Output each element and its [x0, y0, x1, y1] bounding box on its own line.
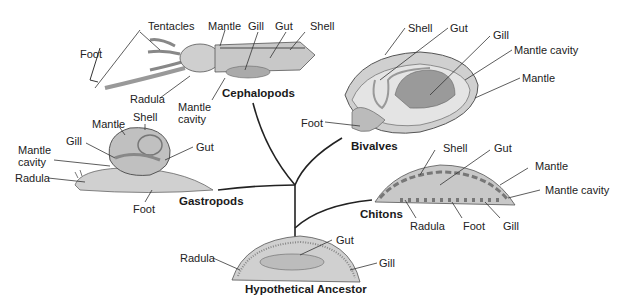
- label-gas-gut: Gut: [196, 141, 214, 153]
- label-chi-shell: Shell: [443, 142, 467, 154]
- label-biv-foot: Foot: [301, 117, 323, 129]
- label-ceph-gill: Gill: [248, 20, 264, 32]
- label-anc-gut: Gut: [336, 234, 354, 246]
- label-chi-radula: Radula: [410, 220, 445, 232]
- label-anc-radula: Radula: [180, 252, 215, 264]
- label-ceph-radula: Radula: [130, 93, 165, 105]
- label-biv-gut: Gut: [450, 22, 468, 34]
- label-biv-mantle: Mantle: [522, 72, 555, 84]
- label-gas-mantle-cavity-2: cavity: [18, 156, 46, 168]
- label-ceph-foot: Foot: [80, 48, 102, 60]
- group-label-chitons: Chitons: [360, 208, 403, 220]
- label-gas-foot: Foot: [133, 203, 155, 215]
- label-chi-mantle-cavity: Mantle cavity: [545, 184, 609, 196]
- label-biv-mantle-cavity: Mantle cavity: [514, 44, 578, 56]
- label-gas-shell: Shell: [133, 111, 157, 123]
- label-biv-gill: Gill: [493, 29, 509, 41]
- label-ceph-mantle-cavity-2: cavity: [178, 113, 206, 125]
- group-label-cephalopods: Cephalopods: [222, 87, 295, 99]
- group-label-gastropods: Gastropods: [179, 195, 244, 207]
- label-biv-shell: Shell: [408, 22, 432, 34]
- label-gas-gill: Gill: [66, 135, 82, 147]
- label-chi-mantle: Mantle: [535, 160, 568, 172]
- label-ceph-mantle: Mantle: [208, 20, 241, 32]
- label-ceph-shell: Shell: [310, 20, 334, 32]
- bivalve-illustration: [325, 28, 520, 133]
- label-ceph-tentacles: Tentacles: [148, 20, 194, 32]
- label-anc-gill: Gill: [379, 257, 395, 269]
- label-ceph-gut: Gut: [275, 20, 293, 32]
- label-gas-radula: Radula: [15, 172, 50, 184]
- label-chi-foot: Foot: [463, 220, 485, 232]
- label-gas-mantle: Mantle: [92, 118, 125, 130]
- label-chi-gill: Gill: [503, 220, 519, 232]
- label-gas-mantle-cavity-1: Mantle: [18, 144, 51, 156]
- label-chi-gut: Gut: [494, 142, 512, 154]
- label-ceph-mantle-cavity-1: Mantle: [178, 101, 211, 113]
- group-label-bivalves: Bivalves: [351, 140, 398, 152]
- group-label-ancestor: Hypothetical Ancestor: [245, 283, 367, 295]
